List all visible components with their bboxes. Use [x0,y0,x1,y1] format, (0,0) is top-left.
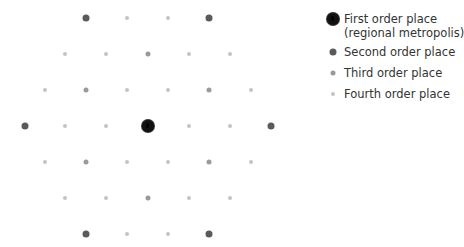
third-order-place-icon [84,88,89,93]
fourth-order-place-icon [166,16,170,20]
third-order-place-icon [331,71,336,76]
third-order-place-icon [84,160,89,165]
fourth-order-place-icon [125,88,129,92]
third-order-place-icon [146,196,151,201]
fourth-order-place-icon [63,124,67,128]
fourth-order-place-icon [187,124,191,128]
fourth-order-place-icon [228,196,232,200]
fourth-order-place-icon [249,160,253,164]
fourth-order-place-icon [63,52,67,56]
fourth-order-place-icon [331,92,335,96]
legend-label: Third order place [344,66,442,80]
fourth-order-place-icon [125,232,129,236]
fourth-order-place-icon [125,16,129,20]
fourth-order-place-icon [166,232,170,236]
fourth-order-place-icon [166,88,170,92]
second-order-place-icon [83,15,90,22]
legend-label: Fourth order place [344,87,450,101]
central-place-lattice [0,0,290,247]
fourth-order-place-icon [63,196,67,200]
fourth-order-place-icon [125,160,129,164]
fourth-order-place-icon [43,88,47,92]
fourth-order-place-icon [228,124,232,128]
fourth-order-place-icon [187,196,191,200]
fourth-order-place-icon [104,52,108,56]
fourth-order-place-icon [228,52,232,56]
second-order-place-icon [83,231,90,238]
fourth-order-place-icon [104,196,108,200]
third-order-place-icon [146,52,151,57]
fourth-order-place-icon [43,160,47,164]
second-order-place-icon [22,123,29,130]
second-order-place-icon [330,49,337,56]
fourth-order-place-icon [249,88,253,92]
fourth-order-place-icon [166,160,170,164]
legend-label-line1: First order place [344,12,437,26]
second-order-place-icon [206,231,213,238]
fourth-order-place-icon [187,52,191,56]
third-order-place-icon [207,88,212,93]
first-order-place-icon [142,120,154,132]
fourth-order-place-icon [104,124,108,128]
legend-label: Second order place [344,45,455,59]
legend-label-line2: (regional metropolis) [344,26,464,40]
third-order-place-icon [207,160,212,165]
legend-label: First order place (regional metropolis) [344,12,464,40]
second-order-place-icon [268,123,275,130]
first-order-place-icon [327,13,339,25]
second-order-place-icon [206,15,213,22]
